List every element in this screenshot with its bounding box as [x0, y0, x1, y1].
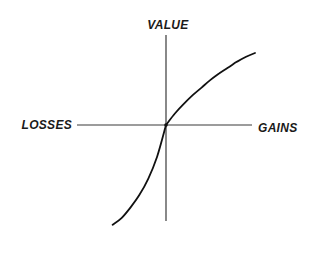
value-axis-label: VALUE — [147, 18, 189, 32]
reference-point — [164, 123, 168, 127]
gains-axis-label: GAINS — [258, 121, 298, 135]
losses-curve — [113, 125, 166, 225]
gains-curve — [166, 53, 255, 125]
value-function-chart: VALUE LOSSES GAINS — [0, 0, 320, 253]
losses-axis-label: LOSSES — [22, 118, 72, 132]
